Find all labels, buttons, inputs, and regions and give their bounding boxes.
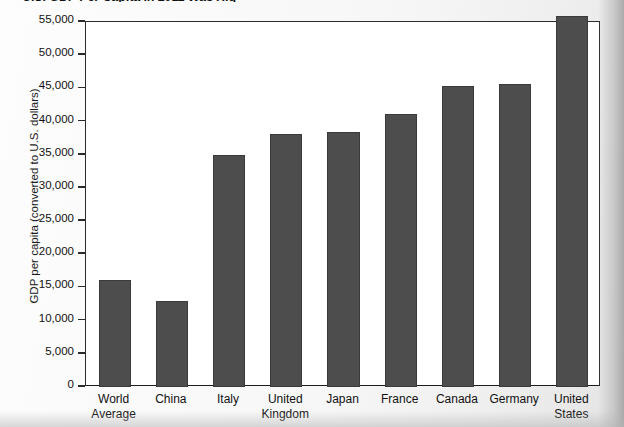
bar (156, 301, 188, 387)
y-axis-tick-mark (78, 20, 85, 22)
y-axis-tick-label: 10,000 (39, 312, 74, 324)
y-axis-tick-mark (78, 186, 85, 188)
y-axis-tick-mark (78, 352, 85, 354)
bar (499, 84, 531, 387)
y-axis-tick-mark (78, 53, 85, 55)
x-axis-tick-label: Italy (199, 392, 256, 407)
x-axis-tick-label: World Average (85, 392, 142, 421)
x-axis-tick-label: China (142, 392, 199, 407)
bar (442, 86, 474, 387)
bottom-partial-caption (300, 418, 620, 427)
x-axis-tick-label: United States (543, 392, 600, 421)
bar (99, 280, 131, 387)
y-axis-tick-label: 55,000 (39, 13, 74, 25)
y-axis-tick-label: 20,000 (39, 245, 74, 257)
y-axis-tick-mark (78, 87, 85, 89)
y-axis-tick-mark (78, 153, 85, 155)
y-axis-tick-label: 5,000 (45, 345, 74, 357)
x-axis-tick-label: France (371, 392, 428, 407)
bar (556, 16, 588, 387)
y-axis-tick-label: 15,000 (39, 278, 74, 290)
y-axis-tick-mark (78, 219, 85, 221)
y-axis-tick-mark (78, 286, 85, 288)
y-axis-tick-label: 45,000 (39, 79, 74, 91)
y-axis-tick-mark (78, 120, 85, 122)
y-axis-tick-mark (78, 252, 85, 254)
y-axis-tick-label: 25,000 (39, 212, 74, 224)
chart-title: U.S. GDP Per Capita in 2011 Was Hig (22, 0, 582, 2)
bar (327, 132, 359, 387)
y-axis-tick-label: 50,000 (39, 46, 74, 58)
y-axis-tick-label: 30,000 (39, 179, 74, 191)
y-axis-tick-mark (78, 385, 85, 387)
bar (385, 114, 417, 387)
x-axis-tick-label: Japan (314, 392, 371, 407)
bar (270, 134, 302, 387)
bar (213, 155, 245, 387)
y-axis-tick-label: 40,000 (39, 113, 74, 125)
x-axis-tick-label: United Kingdom (257, 392, 314, 421)
y-axis-tick-label: 35,000 (39, 146, 74, 158)
x-axis-tick-label: Germany (486, 392, 543, 407)
plot-area (85, 21, 600, 386)
x-axis-tick-label: Canada (428, 392, 485, 407)
y-axis-tick-label: 0 (68, 378, 74, 390)
y-axis-tick-mark (78, 319, 85, 321)
